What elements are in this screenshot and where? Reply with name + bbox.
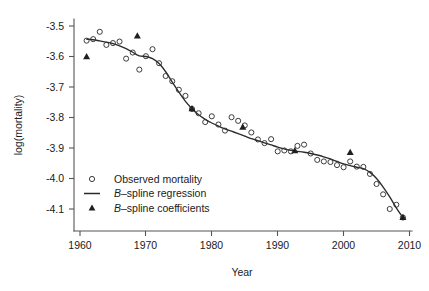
x-tick-label: 1960 [68, 239, 92, 251]
y-tick-label: -3.7 [46, 81, 64, 93]
legend-item-observed-mortality: Observed mortality [114, 173, 203, 185]
x-tick-label: 2000 [332, 239, 356, 251]
y-tick-label: -4.1 [46, 203, 64, 215]
legend-item-spline-coefficients: B–spline coefficients [114, 202, 210, 214]
y-tick-label: -3.9 [46, 142, 64, 154]
mortality-spline-chart: -3.5 -3.6 -3.7 -3.8 -3.9 -4.0 -4.1 1960 … [0, 0, 429, 291]
x-tick-label: 1970 [134, 239, 158, 251]
x-axis-title: Year [231, 266, 253, 278]
x-tick-label: 1980 [200, 239, 224, 251]
legend-item-spline-regression: B–spline regression [114, 187, 206, 199]
x-tick-label: 2010 [398, 239, 422, 251]
y-tick-label: -3.8 [46, 111, 64, 123]
y-tick-label: -3.5 [46, 20, 64, 32]
y-axis-title: log(mortality) [12, 95, 24, 156]
y-tick-label: -4.0 [46, 172, 64, 184]
chart-figure: -3.5 -3.6 -3.7 -3.8 -3.9 -4.0 -4.1 1960 … [0, 0, 429, 291]
x-tick-label: 1990 [266, 239, 290, 251]
y-tick-label: -3.6 [46, 50, 64, 62]
